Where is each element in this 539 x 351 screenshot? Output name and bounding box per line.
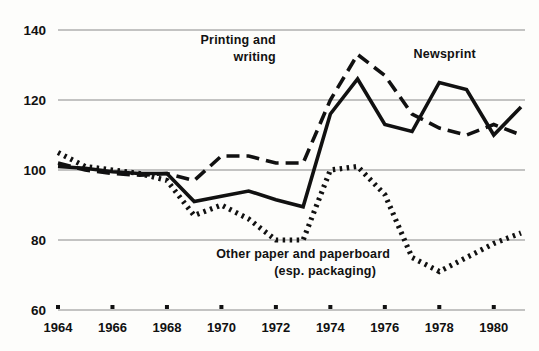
x-axis-label-1980: 1980 (479, 320, 508, 335)
x-tick-1972 (274, 305, 278, 309)
x-tick-1980 (492, 305, 496, 309)
x-tick-1966 (110, 305, 114, 309)
x-tick-1968 (165, 305, 169, 309)
y-axis-label-140: 140 (23, 23, 46, 38)
x-axis-label-1972: 1972 (261, 320, 290, 335)
annotation-other-line1: Other paper and paperboard (216, 247, 390, 261)
y-axis-label-60: 60 (31, 303, 46, 318)
annotation-other-line2: (esp. packaging) (274, 264, 376, 278)
x-tick-1974 (328, 305, 332, 309)
x-axis-label-1974: 1974 (316, 320, 346, 335)
annotation-newsprint-label: Newsprint (414, 47, 477, 61)
x-axis-label-1976: 1976 (370, 320, 399, 335)
x-axis-label-1968: 1968 (152, 320, 181, 335)
x-axis-label-1970: 1970 (207, 320, 236, 335)
annotation-newsprint: Newsprint (414, 47, 477, 61)
x-tick-1978 (437, 305, 441, 309)
chart-container: 6080100120140 19641966196819701972197419… (0, 0, 539, 351)
x-axis-labels: 196419661968197019721974197619781980 (44, 320, 509, 335)
x-axis-label-1966: 1966 (98, 320, 127, 335)
line-chart: 6080100120140 19641966196819701972197419… (0, 0, 539, 351)
x-axis-label-1978: 1978 (425, 320, 454, 335)
y-axis-label-100: 100 (23, 163, 46, 178)
y-axis-label-80: 80 (31, 233, 46, 248)
annotation-printing-line2: writing (233, 50, 276, 64)
annotation-printing-line1: Printing and (201, 33, 276, 47)
x-axis-label-1964: 1964 (44, 320, 74, 335)
x-tick-1976 (383, 305, 387, 309)
x-tick-1970 (219, 305, 223, 309)
y-axis-label-120: 120 (23, 93, 46, 108)
x-tick-1964 (56, 305, 60, 309)
